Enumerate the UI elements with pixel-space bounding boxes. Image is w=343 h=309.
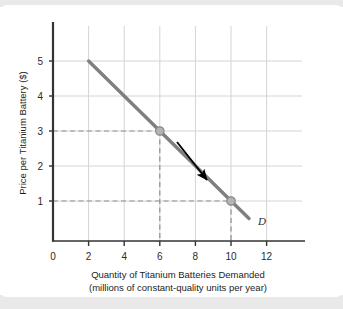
x-tick-label-10: 10 xyxy=(225,251,237,262)
y-tick-label-4: 4 xyxy=(37,91,43,102)
x-tick-label-8: 8 xyxy=(193,251,199,262)
data-point-marker-1 xyxy=(156,127,164,135)
y-axis-title: Price per Titanium Battery ($) xyxy=(17,71,28,195)
x-axis-subtitle: (millions of constant-quality units per … xyxy=(89,282,267,293)
x-tick-label-4: 4 xyxy=(121,251,127,262)
y-tick-labels: 5 4 3 2 1 xyxy=(37,56,43,207)
y-tick-label-5: 5 xyxy=(37,56,43,67)
x-tick-label-6: 6 xyxy=(157,251,163,262)
demand-curve-figure: 5 4 3 2 1 0 2 4 6 8 10 12 D Price per Ti… xyxy=(0,0,343,309)
demand-curve-label: D xyxy=(257,215,266,227)
y-tick-label-3: 3 xyxy=(37,126,43,137)
x-tick-label-12: 12 xyxy=(261,251,273,262)
gridlines xyxy=(53,26,302,241)
demand-chart-svg: 5 4 3 2 1 0 2 4 6 8 10 12 D Price per Ti… xyxy=(0,0,343,309)
x-axis-title: Quantity of Titanium Batteries Demanded xyxy=(91,269,265,280)
demand-curve xyxy=(89,61,249,219)
data-point-marker-2 xyxy=(227,197,235,205)
movement-along-curve-arrow xyxy=(177,142,207,180)
y-tick-label-2: 2 xyxy=(37,161,43,172)
guide-lines xyxy=(53,131,231,241)
x-tick-label-2: 2 xyxy=(86,251,92,262)
x-tick-labels: 0 2 4 6 8 10 12 xyxy=(50,251,272,262)
x-tick-label-0: 0 xyxy=(50,251,56,262)
y-tick-label-1: 1 xyxy=(37,196,43,207)
